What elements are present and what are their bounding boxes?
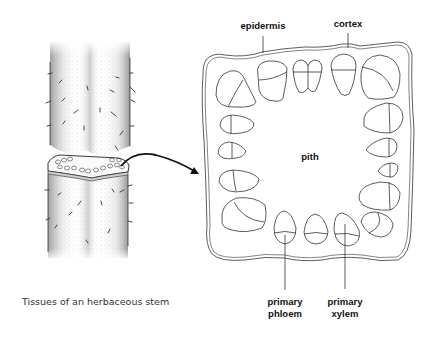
upper-stem-segment (46, 40, 135, 156)
label-primary-phloem: primary phloem (260, 296, 310, 320)
label-primary-xylem-line2: xylem (320, 308, 370, 320)
label-primary-xylem-line1: primary (320, 296, 370, 308)
label-primary-phloem-line1: primary (260, 296, 310, 308)
label-cortex: cortex (327, 18, 369, 30)
pointer-arrow (121, 154, 199, 174)
lower-stem-segment (45, 174, 133, 261)
stem-illustration (45, 40, 135, 261)
figure-caption: Tissues of an herbaceous stem (22, 296, 169, 307)
label-primary-phloem-line2: phloem (260, 308, 310, 320)
label-primary-xylem: primary xylem (320, 296, 370, 320)
label-pith: pith (298, 151, 322, 163)
label-epidermis: epidermis (237, 20, 289, 32)
xylem-bundle (334, 213, 360, 246)
diagram-canvas (0, 0, 435, 339)
